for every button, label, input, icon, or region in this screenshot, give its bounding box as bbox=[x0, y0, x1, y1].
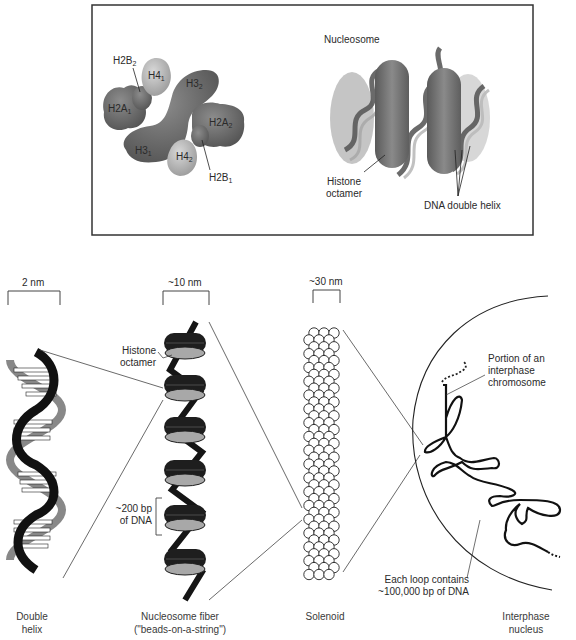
scale-brackets bbox=[8, 290, 340, 305]
label-h2b1: H2B1 bbox=[209, 172, 232, 187]
label-h4-2: H42 bbox=[176, 151, 193, 166]
solenoid bbox=[304, 328, 339, 580]
label-h2a1: H2A1 bbox=[108, 103, 131, 118]
label-histone-octamer-fiber: Histone octamer bbox=[114, 345, 156, 369]
chromatin-diagram bbox=[0, 0, 576, 640]
label-200bp: ~200 bp of DNA bbox=[110, 503, 152, 527]
scale-30nm: ~30 nm bbox=[309, 276, 343, 288]
double-helix bbox=[10, 352, 62, 570]
scale-2nm: 2 nm bbox=[22, 277, 44, 289]
label-histone-octamer-top: Histone octamer bbox=[314, 176, 374, 200]
label-dna-double-helix: DNA double helix bbox=[424, 200, 501, 212]
caption-nucleosome-fiber: Nucleosome fiber ("beads-on-a-string") bbox=[120, 610, 240, 636]
interphase-nucleus bbox=[413, 296, 560, 590]
label-h2a2: H2A2 bbox=[209, 117, 232, 132]
caption-solenoid: Solenoid bbox=[300, 610, 350, 623]
label-portion-chromosome: Portion of an interphase chromosome bbox=[488, 353, 546, 389]
label-each-loop: Each loop contains ~100,000 bp of DNA bbox=[377, 574, 469, 598]
scale-10nm: ~10 nm bbox=[168, 277, 202, 289]
connector-lines bbox=[40, 322, 423, 600]
nucleosome-title: Nucleosome bbox=[324, 34, 380, 46]
label-h3-1: H31 bbox=[135, 145, 152, 160]
label-h3-2: H32 bbox=[186, 78, 203, 93]
label-h4-1: H41 bbox=[148, 70, 165, 85]
label-h2b2: H2B2 bbox=[113, 55, 136, 70]
caption-double-helix: Double helix bbox=[10, 610, 54, 636]
caption-interphase-nucleus: Interphase nucleus bbox=[496, 610, 556, 636]
